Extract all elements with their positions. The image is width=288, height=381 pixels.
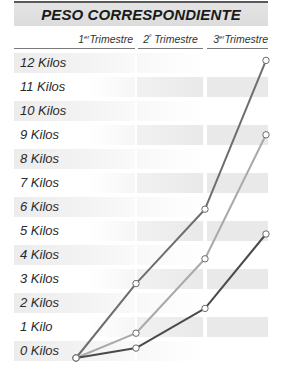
data-point-marker — [73, 355, 79, 361]
data-point-marker — [133, 330, 139, 336]
data-point-marker — [263, 57, 269, 63]
series-points — [73, 57, 269, 361]
series-lines — [76, 60, 266, 358]
line-plot — [0, 0, 288, 381]
data-point-marker — [263, 132, 269, 138]
data-point-marker — [202, 206, 208, 212]
data-point-marker — [202, 256, 208, 262]
data-point-marker — [202, 305, 208, 311]
data-point-marker — [263, 231, 269, 237]
data-point-marker — [133, 345, 139, 351]
series-line-1 — [76, 60, 266, 358]
data-point-marker — [133, 280, 139, 286]
